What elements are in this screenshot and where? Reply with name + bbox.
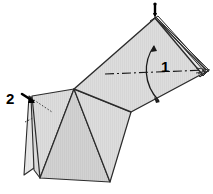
step-number-2: 2 — [6, 90, 14, 107]
main-body-panel — [74, 16, 210, 112]
origami-figure: 1 2 — [0, 0, 213, 194]
origami-diagram-svg: 1 2 — [0, 0, 213, 194]
apex-pointer-marker — [153, 2, 157, 18]
step-number-1: 1 — [161, 58, 169, 75]
